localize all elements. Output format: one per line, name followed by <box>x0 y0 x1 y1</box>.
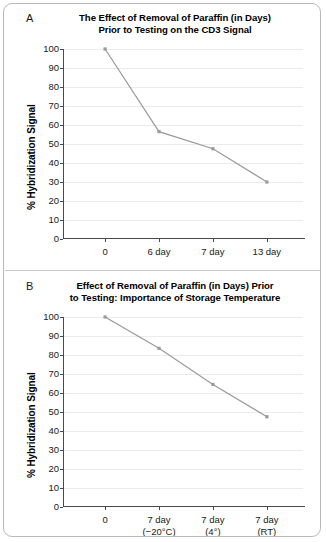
y-tick-mark <box>60 239 63 240</box>
x-tick-mark <box>105 239 106 242</box>
data-point-marker <box>265 415 268 418</box>
y-tick-label: 20 <box>27 463 59 474</box>
y-tick-label: 50 <box>27 138 59 149</box>
data-point-marker <box>265 180 268 183</box>
x-tick-mark <box>213 507 214 510</box>
y-tick-label: 100 <box>27 311 59 322</box>
y-tick-label: 60 <box>27 387 59 398</box>
chart-title-a-line2: Prior to Testing on the CD3 Signal <box>44 24 306 36</box>
chart-title-b: Effect of Removal of Paraffin (in Days) … <box>44 280 306 304</box>
y-tick-label: 80 <box>27 81 59 92</box>
data-point-marker <box>157 347 160 350</box>
y-tick-label: 30 <box>27 176 59 187</box>
panel-letter-b: B <box>26 280 34 292</box>
x-tick-label: 13 day <box>227 246 307 258</box>
x-tick-mark <box>267 507 268 510</box>
y-tick-label: 30 <box>27 444 59 455</box>
x-tick-label-line: 13 day <box>227 246 307 258</box>
chart-panel-a: A The Effect of Removal of Paraffin (in … <box>4 4 321 270</box>
chart-title-a: The Effect of Removal of Paraffin (in Da… <box>44 12 306 36</box>
y-tick-label: 70 <box>27 100 59 111</box>
y-tick-label: 90 <box>27 330 59 341</box>
x-tick-mark <box>105 507 106 510</box>
x-tick-mark <box>213 239 214 242</box>
x-tick-label: 7 day(RT) <box>227 514 307 537</box>
y-tick-label: 100 <box>27 43 59 54</box>
y-tick-label: 80 <box>27 349 59 360</box>
chart-title-a-line1: The Effect of Removal of Paraffin (in Da… <box>44 12 306 24</box>
plot-area-b: 010203040506070809010007 day(−20°C)7 day… <box>63 317 303 507</box>
y-tick-label: 60 <box>27 119 59 130</box>
series-line <box>105 317 267 417</box>
x-tick-mark <box>159 239 160 242</box>
data-point-marker <box>157 130 160 133</box>
x-tick-mark <box>267 239 268 242</box>
y-tick-label: 20 <box>27 195 59 206</box>
y-tick-label: 0 <box>27 233 59 244</box>
x-tick-mark <box>159 507 160 510</box>
y-tick-mark <box>60 507 63 508</box>
x-tick-label-line: 7 day <box>227 514 307 526</box>
data-point-marker <box>211 147 214 150</box>
chart-title-b-line1: Effect of Removal of Paraffin (in Days) … <box>44 280 306 292</box>
y-tick-label: 40 <box>27 425 59 436</box>
y-tick-label: 10 <box>27 482 59 493</box>
data-series <box>63 317 303 507</box>
y-tick-label: 50 <box>27 406 59 417</box>
y-tick-label: 90 <box>27 62 59 73</box>
y-tick-label: 70 <box>27 368 59 379</box>
data-point-marker <box>211 383 214 386</box>
chart-title-b-line2: to Testing: Importance of Storage Temper… <box>44 292 306 304</box>
y-tick-label: 0 <box>27 501 59 512</box>
data-point-marker <box>103 315 106 318</box>
series-line <box>105 49 267 182</box>
y-tick-label: 40 <box>27 157 59 168</box>
data-series <box>63 49 303 239</box>
panel-letter-a: A <box>26 12 34 24</box>
y-tick-label: 10 <box>27 214 59 225</box>
chart-panel-b: B Effect of Removal of Paraffin (in Days… <box>4 271 321 537</box>
figure-frame: A The Effect of Removal of Paraffin (in … <box>3 3 321 537</box>
x-tick-label-line: (RT) <box>227 526 307 538</box>
plot-area-a: 010203040506070809010006 day7 day13 day <box>63 49 303 239</box>
data-point-marker <box>103 47 106 50</box>
